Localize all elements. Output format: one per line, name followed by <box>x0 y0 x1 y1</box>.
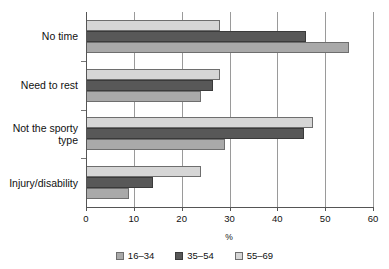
legend-item: 35–54 <box>175 250 213 261</box>
bar <box>86 188 129 199</box>
bar <box>86 177 153 188</box>
x-axis-title: % <box>225 232 233 242</box>
x-tick-label: 30 <box>224 213 235 224</box>
x-tick-label: 40 <box>272 213 283 224</box>
bar <box>86 139 225 150</box>
bar <box>86 128 304 139</box>
x-tick-label: 60 <box>368 213 379 224</box>
x-tick <box>86 207 87 211</box>
legend-swatch <box>235 252 243 260</box>
legend-item: 55–69 <box>235 250 273 261</box>
x-tick <box>134 207 135 211</box>
legend-swatch <box>116 252 124 260</box>
category-label: No time <box>42 30 78 42</box>
bar <box>86 42 349 53</box>
plot-area <box>86 12 373 207</box>
x-tick-label: 20 <box>176 213 187 224</box>
y-tick <box>81 158 86 159</box>
y-tick <box>81 110 86 111</box>
bar-chart: 0102030405060 No timeNeed to restNot the… <box>0 0 389 269</box>
bar <box>86 31 306 42</box>
y-axis-line <box>86 12 87 207</box>
legend-label: 55–69 <box>247 250 273 261</box>
x-tick-label: 0 <box>83 213 88 224</box>
legend-label: 16–34 <box>128 250 154 261</box>
legend-label: 35–54 <box>187 250 213 261</box>
category-label: Not the sporty type <box>13 122 78 146</box>
y-tick <box>81 61 86 62</box>
x-tick <box>182 207 183 211</box>
bar <box>86 20 220 31</box>
x-tick <box>230 207 231 211</box>
category-label: Need to rest <box>21 79 78 91</box>
bar <box>86 117 313 128</box>
x-tick-label: 50 <box>320 213 331 224</box>
x-tick <box>277 207 278 211</box>
x-tick <box>373 207 374 211</box>
x-tick <box>325 207 326 211</box>
legend-item: 16–34 <box>116 250 154 261</box>
chart-legend: 16–3435–5455–69 <box>0 250 389 261</box>
bar <box>86 80 213 91</box>
bar <box>86 91 201 102</box>
bar <box>86 69 220 80</box>
gridline <box>373 12 374 207</box>
legend-swatch <box>175 252 183 260</box>
x-tick-label: 10 <box>129 213 140 224</box>
category-label: Injury/disability <box>9 177 78 189</box>
bar <box>86 166 201 177</box>
